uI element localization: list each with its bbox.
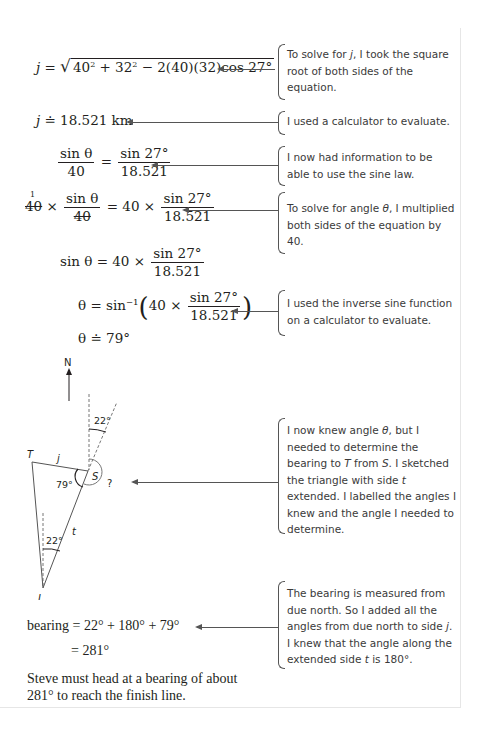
bracket-diagram [278, 418, 285, 534]
arrow-step-3 [153, 165, 278, 166]
arrow-diagram [133, 482, 278, 483]
note-step-4: To solve for angle θ, I multiplied both … [287, 200, 457, 250]
conclusion-text: Steve must head at a bearing of about 28… [27, 670, 237, 704]
arrow-step-6 [233, 311, 278, 312]
svg-text:S: S [92, 471, 99, 482]
svg-text:?: ? [107, 478, 112, 489]
note-diagram: I now knew angle θ, but I needed to dete… [287, 422, 457, 538]
bracket-step-6 [278, 290, 285, 336]
note-bearing: The bearing is measured from due north. … [287, 585, 457, 668]
svg-text:t: t [72, 526, 77, 537]
arrow-step-2 [128, 122, 278, 123]
svg-text:T: T [27, 449, 34, 460]
bracket-step-2 [278, 111, 285, 135]
bracket-step-1 [278, 44, 285, 100]
note-step-2: I used a calculator to evaluate. [287, 113, 457, 130]
svg-text:j: j [55, 453, 60, 464]
arrow-step-4 [184, 210, 278, 211]
svg-text:22°: 22° [46, 535, 63, 546]
arrow-step-1 [219, 69, 275, 70]
north-arrow-icon: N [64, 357, 72, 401]
note-step-1: To solve for j, I took the square root o… [287, 46, 457, 96]
equation-bearing: bearing = 22° + 180° + 79° [27, 618, 179, 634]
equation-j-sqrt: j = √402 + 322 − 2(40)(32)cos 27° [36, 56, 274, 76]
bracket-step-4 [278, 192, 285, 254]
arrow-bearing [197, 627, 278, 628]
bracket-bearing [278, 581, 285, 669]
equation-bearing-result: = 281° [71, 643, 109, 659]
equation-theta-inverse: θ = sin⁻¹(40 × sin 27°18.521) [78, 290, 252, 323]
north-label: N [64, 357, 71, 368]
equation-sin-theta: sin θ = 40 × sin 27°18.521 [60, 246, 206, 279]
bracket-step-3 [278, 146, 285, 186]
equation-j-value: j ≐ 18.521 km [36, 112, 133, 128]
equation-theta-value: θ ≐ 79° [78, 330, 130, 346]
note-step-6: I used the inverse sine function on a ca… [287, 295, 457, 328]
note-step-3: I now had information to be able to use … [287, 149, 457, 182]
svg-text:79°: 79° [56, 479, 73, 490]
triangle-diagram: N 22° T j S 79° ? t 22° J [0, 350, 270, 600]
svg-text:22°: 22° [94, 415, 111, 426]
svg-text:J: J [36, 593, 41, 600]
